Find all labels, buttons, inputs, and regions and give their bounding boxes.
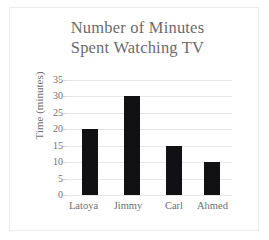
y-tick-label-0: 0 <box>37 190 63 200</box>
y-tick-label-20: 20 <box>37 124 63 134</box>
tickmark-25 <box>63 113 67 114</box>
chart-image: Number of Minutes Spent Watching TV Time… <box>0 0 269 240</box>
y-axis-tick-labels: 35 30 25 20 15 10 5 0 <box>37 80 63 195</box>
tickmark-20 <box>63 129 67 130</box>
tickmark-15 <box>63 146 67 147</box>
y-tick-label-30: 30 <box>37 91 63 101</box>
y-tick-label-25: 25 <box>37 108 63 118</box>
tickmark-5 <box>63 179 67 180</box>
chart-title-line-1: Number of Minutes <box>30 18 245 38</box>
x-tick-label-latoya: Latoya <box>61 200 106 212</box>
gridline-35 <box>67 80 232 81</box>
x-tick-label-ahmed: Ahmed <box>189 200 236 212</box>
tickmark-30 <box>63 96 67 97</box>
y-tick-label-10: 10 <box>37 157 63 167</box>
bar-ahmed <box>204 162 220 195</box>
plot-area <box>67 80 232 195</box>
tickmark-10 <box>63 162 67 163</box>
gridline-30 <box>67 96 232 97</box>
gridline-25 <box>67 113 232 114</box>
gridline-0 <box>67 195 232 196</box>
bar-jimmy <box>124 96 140 195</box>
bar-latoya <box>82 129 98 195</box>
chart-title: Number of Minutes Spent Watching TV <box>30 18 245 58</box>
tickmark-35 <box>63 80 67 81</box>
tickmark-0 <box>63 195 67 196</box>
y-tick-label-5: 5 <box>37 174 63 184</box>
x-tick-label-jimmy: Jimmy <box>105 200 151 212</box>
y-tick-label-15: 15 <box>37 141 63 151</box>
y-tick-label-35: 35 <box>37 75 63 85</box>
chart-title-line-2: Spent Watching TV <box>30 38 245 58</box>
bar-carl <box>166 146 182 195</box>
x-axis-tick-labels: Latoya Jimmy Carl Ahmed <box>67 200 232 216</box>
